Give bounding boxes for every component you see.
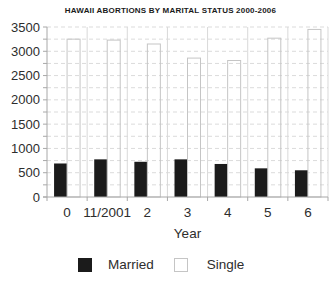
bar-single-6 xyxy=(308,29,321,197)
x-tick-label: 6 xyxy=(304,205,312,220)
bar-married-5 xyxy=(255,168,268,197)
bar-married-4 xyxy=(215,164,228,197)
y-tick-label: 3000 xyxy=(11,44,40,59)
married-swatch xyxy=(78,258,92,272)
y-tick-label: 1500 xyxy=(11,117,40,132)
chart-window: HAWAII ABORTIONS BY MARITAL STATUS 2000-… xyxy=(0,0,331,281)
y-tick-label: 500 xyxy=(18,165,40,180)
y-tick-label: 0 xyxy=(33,190,40,205)
single-swatch xyxy=(174,258,188,272)
y-tick-label: 2000 xyxy=(11,92,40,107)
bar-single-0 xyxy=(67,39,80,197)
y-tick-label: 3500 xyxy=(11,20,40,35)
legend-label-single: Single xyxy=(207,257,245,272)
bar-single-2 xyxy=(147,44,160,197)
bar-single-4 xyxy=(228,61,241,197)
legend-label-married: Married xyxy=(108,257,154,272)
x-axis-title: Year xyxy=(47,226,328,241)
bar-married-3 xyxy=(175,159,188,197)
y-tick-label: 2500 xyxy=(11,68,40,83)
bar-chart-plot: 0500100015002000250030003500011/20012345… xyxy=(0,0,331,250)
bar-married-1 xyxy=(94,159,107,197)
y-tick-label: 1000 xyxy=(11,141,40,156)
x-tick-label: 0 xyxy=(63,205,71,220)
bar-married-6 xyxy=(295,170,308,197)
x-tick-label: 5 xyxy=(264,205,272,220)
bar-married-2 xyxy=(134,162,147,197)
x-tick-label: 11/2001 xyxy=(83,205,131,220)
x-tick-label: 3 xyxy=(184,205,192,220)
x-tick-label: 2 xyxy=(144,205,152,220)
bar-single-3 xyxy=(188,58,201,197)
x-tick-label: 4 xyxy=(224,205,232,220)
bar-married-0 xyxy=(54,163,67,197)
legend: Married Single xyxy=(78,257,244,272)
